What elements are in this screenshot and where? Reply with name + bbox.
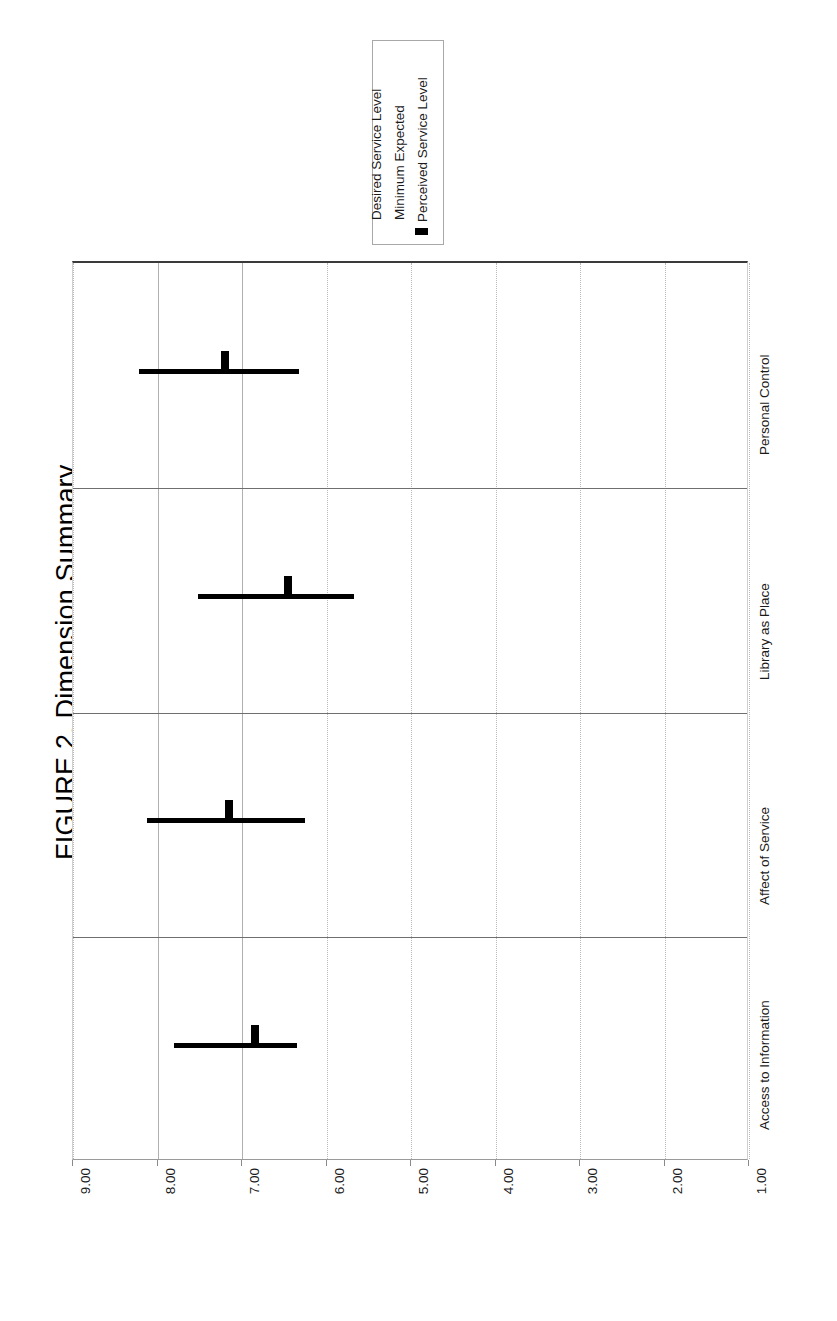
perceived-service-level-marker bbox=[284, 576, 292, 598]
figure-root: FIGURE 2. Dimension Summary Desired Serv… bbox=[0, 0, 837, 1321]
gridline-7 bbox=[242, 263, 243, 1159]
legend-swatch-empty-icon bbox=[393, 224, 405, 238]
chart-legend: Desired Service Level Minimum Expected P… bbox=[372, 40, 444, 245]
axis-tick-mark bbox=[410, 1160, 411, 1166]
legend-item-perceived-service-level: Perceived Service Level bbox=[413, 58, 433, 238]
legend-item-label: Perceived Service Level bbox=[415, 77, 430, 222]
gridline-8 bbox=[158, 263, 159, 1159]
gridline-4 bbox=[496, 263, 497, 1159]
category-label: Library as Place bbox=[756, 510, 774, 680]
axis-tick-label: 4.00 bbox=[501, 1168, 517, 1232]
axis-tick-label: 1.00 bbox=[754, 1168, 770, 1232]
axis-tick-mark bbox=[326, 1160, 327, 1166]
category-label: Access to Information bbox=[756, 960, 774, 1130]
gridline-1 bbox=[749, 263, 750, 1159]
plot-area bbox=[72, 261, 748, 1160]
axis-tick-mark bbox=[664, 1160, 665, 1166]
legend-swatch-empty-icon bbox=[370, 224, 382, 238]
gridline-5 bbox=[411, 263, 412, 1159]
legend-item-label: Desired Service Level bbox=[369, 89, 384, 220]
legend-item-label: Minimum Expected bbox=[392, 105, 407, 220]
axis-tick-mark bbox=[579, 1160, 580, 1166]
legend-item-minimum-expected: Minimum Expected bbox=[390, 58, 410, 238]
axis-tick-mark bbox=[241, 1160, 242, 1166]
legend-swatch-bar-icon bbox=[415, 228, 428, 235]
perceived-service-level-marker bbox=[251, 1025, 259, 1047]
axis-tick-label: 2.00 bbox=[670, 1168, 686, 1232]
gridline-3 bbox=[580, 263, 581, 1159]
legend-item-desired-service-level: Desired Service Level bbox=[367, 58, 387, 238]
gridline-9 bbox=[73, 263, 74, 1159]
category-separator bbox=[73, 937, 747, 938]
axis-tick-label: 8.00 bbox=[163, 1168, 179, 1232]
axis-tick-label: 3.00 bbox=[585, 1168, 601, 1232]
legend-entries: Desired Service Level Minimum Expected P… bbox=[373, 41, 445, 246]
perceived-service-level-marker bbox=[221, 351, 229, 373]
axis-tick-label: 7.00 bbox=[247, 1168, 263, 1232]
perceived-service-level-marker bbox=[225, 800, 233, 822]
category-separator bbox=[73, 713, 747, 714]
axis-tick-label: 6.00 bbox=[332, 1168, 348, 1232]
range-bar bbox=[174, 1043, 297, 1048]
axis-tick-label: 5.00 bbox=[416, 1168, 432, 1232]
range-bar bbox=[139, 369, 300, 374]
axis-tick-mark bbox=[72, 1160, 73, 1166]
range-bar bbox=[198, 594, 353, 599]
axis-tick-mark bbox=[495, 1160, 496, 1166]
category-label: Personal Control bbox=[756, 285, 774, 455]
category-label: Affect of Service bbox=[756, 735, 774, 905]
gridline-6 bbox=[327, 263, 328, 1159]
category-separator bbox=[73, 488, 747, 489]
axis-tick-mark bbox=[157, 1160, 158, 1166]
gridline-2 bbox=[665, 263, 666, 1159]
axis-tick-mark bbox=[748, 1160, 749, 1166]
axis-tick-label: 9.00 bbox=[78, 1168, 94, 1232]
